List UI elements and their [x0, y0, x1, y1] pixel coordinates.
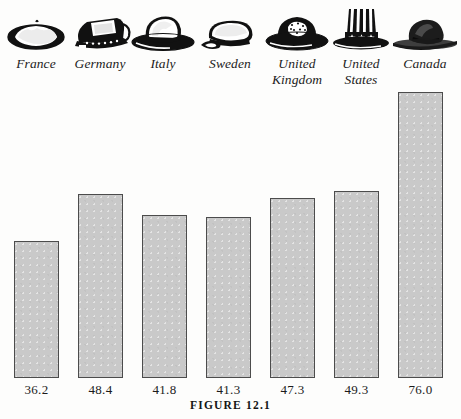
bar-canada	[398, 92, 443, 378]
bar-italy	[142, 215, 187, 378]
bar-germany	[78, 194, 123, 378]
bar-chart-plot	[0, 0, 461, 419]
value-label-france: 36.2	[6, 382, 67, 398]
value-label-united-kingdom: 47.3	[262, 382, 323, 398]
value-label-canada: 76.0	[390, 382, 451, 398]
bar-sweden	[206, 217, 251, 378]
figure-page: France Germany Italy Sweden United Kingd…	[0, 0, 461, 419]
value-label-italy: 41.8	[134, 382, 195, 398]
bar-united-kingdom	[270, 198, 315, 378]
figure-caption: FIGURE 12.1	[0, 399, 461, 411]
value-label-united-states: 49.3	[326, 382, 387, 398]
value-label-sweden: 41.3	[198, 382, 259, 398]
bar-france	[14, 241, 59, 378]
value-label-germany: 48.4	[70, 382, 131, 398]
bar-united-states	[334, 191, 379, 378]
